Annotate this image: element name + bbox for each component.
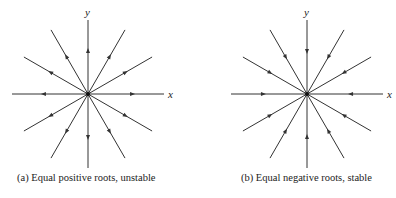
trajectory-line — [243, 57, 307, 94]
arrow-icon — [48, 113, 53, 117]
arrow-icon — [65, 54, 69, 59]
x-axis-label: x — [386, 88, 392, 100]
arrow-icon — [267, 70, 272, 74]
arrow-icon — [65, 128, 69, 133]
phase-portraits: xyxy — [0, 0, 396, 198]
arrow-icon — [86, 48, 90, 53]
trajectory-line — [307, 94, 344, 158]
arrow-icon — [267, 114, 272, 118]
arrow-icon — [86, 135, 90, 140]
arrow-icon — [48, 71, 53, 75]
equilibrium-point — [305, 92, 309, 96]
arrow-icon — [348, 92, 353, 96]
trajectory-line — [270, 30, 307, 94]
trajectory-line — [51, 94, 88, 158]
trajectory-line — [88, 94, 125, 158]
panel-a: xy — [12, 6, 173, 168]
arrow-icon — [107, 128, 111, 133]
arrow-icon — [130, 92, 135, 96]
arrow-icon — [327, 54, 331, 59]
trajectory-line — [307, 30, 344, 94]
y-axis-label: y — [84, 6, 90, 18]
arrow-icon — [305, 49, 309, 54]
caption-b: (b) Equal negative roots, stable — [241, 172, 372, 183]
arrow-icon — [107, 54, 111, 59]
arrow-icon — [122, 113, 127, 117]
trajectory-line — [51, 30, 88, 94]
trajectory-line — [88, 57, 152, 94]
arrow-icon — [41, 92, 46, 96]
arrow-icon — [283, 54, 287, 59]
arrow-icon — [327, 129, 331, 134]
arrow-icon — [305, 134, 309, 139]
trajectory-line — [24, 94, 88, 131]
arrow-icon — [122, 71, 127, 75]
y-axis-label: y — [303, 6, 309, 18]
caption-a: (a) Equal positive roots, unstable — [17, 172, 156, 183]
panel-b: xy — [231, 6, 392, 168]
trajectory-line — [24, 57, 88, 94]
x-axis-label: x — [167, 88, 173, 100]
trajectory-line — [307, 57, 371, 94]
equilibrium-point — [86, 92, 90, 96]
trajectory-line — [243, 94, 307, 131]
trajectory-line — [270, 94, 307, 158]
arrow-icon — [261, 92, 266, 96]
arrow-icon — [342, 114, 347, 118]
trajectory-line — [88, 94, 152, 131]
trajectory-line — [307, 94, 371, 131]
trajectory-line — [88, 30, 125, 94]
arrow-icon — [283, 129, 287, 134]
arrow-icon — [342, 70, 347, 74]
